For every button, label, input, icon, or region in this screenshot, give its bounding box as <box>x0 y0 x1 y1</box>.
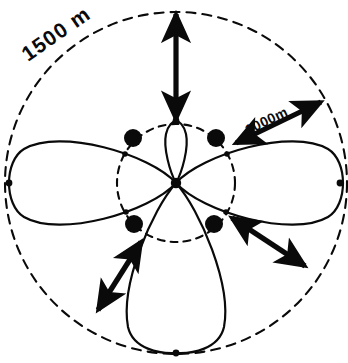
lobe-tip-right-marker <box>337 180 344 187</box>
inner-range-label: 1000m <box>242 103 290 137</box>
node-lower-right <box>223 209 229 215</box>
lobe-top <box>165 121 186 183</box>
radiation-pattern-figure: 1500 m 1000m <box>0 0 348 363</box>
lobe-tip-markers <box>6 118 344 357</box>
center-origin-marker <box>171 178 181 188</box>
radiation-pattern-canvas: 1500 m 1000m <box>0 0 348 363</box>
node-upper-right <box>224 151 230 157</box>
marker-top-left <box>124 129 142 147</box>
lobe-bottom <box>127 183 226 353</box>
lobe-right <box>176 141 343 224</box>
arrow-lower-left <box>98 242 141 310</box>
node-lower-left <box>123 209 129 215</box>
lobe-tip-bottom-marker <box>173 350 180 357</box>
radiation-lobes <box>9 121 343 353</box>
marker-bottom-left <box>125 215 143 233</box>
marker-bottom-right <box>205 215 223 233</box>
outer-range-label: 1500 m <box>17 1 94 65</box>
node-upper-left <box>122 151 128 157</box>
lobe-left <box>9 141 176 224</box>
lobe-tip-left-marker <box>6 180 13 187</box>
range-labels: 1500 m 1000m <box>17 1 290 137</box>
dimension-arrows <box>98 14 321 310</box>
marker-top-right <box>207 129 225 147</box>
